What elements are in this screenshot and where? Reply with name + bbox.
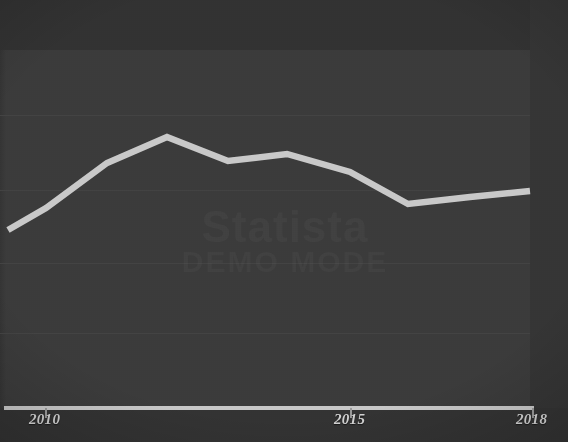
x-tick-label-2018: 2018: [516, 411, 547, 428]
chart-canvas: [0, 0, 568, 442]
x-tick-label-2015: 2015: [334, 411, 365, 428]
x-tick-label-2010: 2010: [29, 411, 60, 428]
data-line-series-1: [8, 137, 530, 230]
chart-root: Statista DEMO MODE 2010 2015 2018: [0, 0, 568, 442]
